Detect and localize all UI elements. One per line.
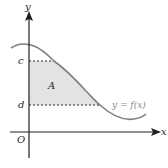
- curve-label: y = f(x): [111, 100, 146, 110]
- origin-label: O: [17, 134, 25, 145]
- shaded-region-a: [29, 61, 100, 105]
- d-label: d: [18, 99, 24, 110]
- x-axis-label: x: [161, 126, 167, 137]
- area-diagram: y x O c d A y = f(x): [0, 0, 168, 168]
- y-axis-label: y: [24, 1, 31, 12]
- region-a-label: A: [47, 80, 55, 91]
- c-label: c: [18, 55, 24, 66]
